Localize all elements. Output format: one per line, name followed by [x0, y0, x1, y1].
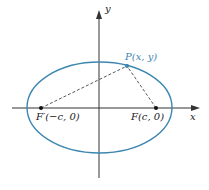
focus-left-label: F′(−c, 0) [36, 111, 80, 122]
y-axis-label: y [105, 3, 111, 14]
focus-right-label: F(c, 0) [131, 111, 164, 122]
point-p-label: P(x, y) [125, 51, 157, 62]
diagram-canvas [0, 0, 209, 190]
y-axis-arrow-icon [96, 10, 102, 19]
x-axis-label: x [190, 111, 196, 122]
point-p [125, 64, 129, 68]
focus-left-point [39, 106, 43, 110]
focus-right-point [154, 106, 158, 110]
dashed-line-right [127, 66, 156, 108]
ellipse-diagram: y x P(x, y) F′(−c, 0) F(c, 0) [0, 0, 209, 190]
